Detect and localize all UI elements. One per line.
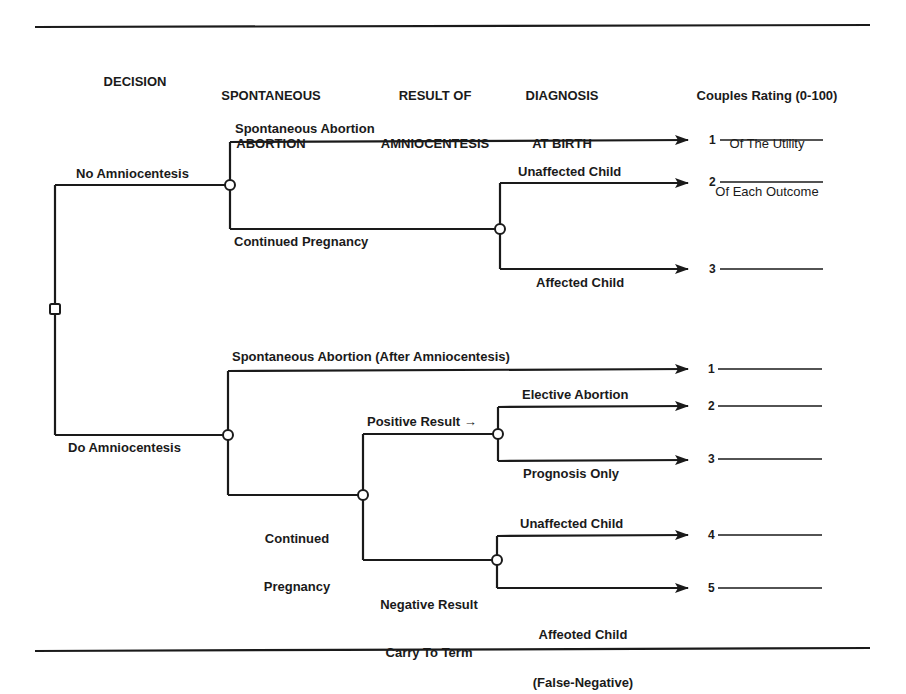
label-da-continued-pregnancy: Continued Pregnancy	[252, 499, 342, 611]
decision-node-square-icon	[50, 304, 60, 314]
header-spontaneous-abortion: SPONTANEOUS ABORTION	[206, 56, 336, 168]
header-diagnosis-at-birth: DIAGNOSIS AT BIRTH	[512, 56, 612, 168]
label-da-spontaneous-abortion: Spontaneous Abortion (After Amniocentesi…	[232, 349, 510, 365]
outcome-number-da-5: 5	[708, 581, 715, 595]
outcome-number-da-2: 2	[708, 399, 715, 413]
header-diagnosis-line1: DIAGNOSIS	[512, 88, 612, 104]
label-da-continued-line2: Pregnancy	[252, 579, 342, 595]
label-da-affected-line1: Affeoted Child	[518, 627, 648, 643]
da-unaffected-branch	[497, 535, 688, 536]
outcome-number-na-1: 1	[709, 133, 716, 147]
header-result-of-amniocentesis: RESULT OF AMNIOCENTESIS	[370, 56, 500, 168]
label-da-negative-line2: Carry To Term	[364, 645, 494, 661]
outcome-number-da-3: 3	[708, 452, 715, 466]
da-spont-branch	[228, 369, 688, 371]
label-da-negative-line1: Negative Result	[364, 597, 494, 613]
top-rule	[35, 25, 870, 27]
header-spontaneous-abortion-line1: SPONTANEOUS	[206, 88, 336, 104]
label-da-affected-line2: (False-Negative)	[518, 675, 648, 691]
outcome-number-da-4: 4	[708, 528, 715, 542]
chance-node-da-pregnancy-icon	[223, 430, 233, 440]
label-na-unaffected-child: Unaffected Child	[518, 164, 621, 180]
da-elective-branch	[498, 406, 688, 407]
header-utility-line2: Of The Utility	[672, 136, 862, 152]
label-da-affected-child: Affeoted Child (False-Negative)	[518, 595, 648, 694]
label-da-positive-result: Positive Result →	[367, 414, 477, 430]
header-utility-rating: Couples Rating (0-100) Of The Utility Of…	[672, 56, 862, 216]
da-prognosis-branch	[498, 460, 688, 461]
label-do-amniocentesis: Do Amniocentesis	[68, 440, 181, 456]
header-diagnosis-line2: AT BIRTH	[512, 136, 612, 152]
label-na-spontaneous-abortion: Spontaneous Abortion	[235, 121, 375, 137]
outcome-number-da-1: 1	[708, 362, 715, 376]
header-result-line1: RESULT OF	[370, 88, 500, 104]
chance-node-na-birth-icon	[495, 224, 505, 234]
label-no-amniocentesis: No Amniocentesis	[76, 166, 189, 182]
chance-node-da-result-icon	[358, 490, 368, 500]
outcome-number-na-3: 3	[709, 262, 716, 276]
chance-node-na-pregnancy-icon	[225, 180, 235, 190]
label-da-continued-line1: Continued	[252, 531, 342, 547]
chance-node-da-negative-icon	[492, 555, 502, 565]
label-na-continued-pregnancy: Continued Pregnancy	[234, 234, 368, 250]
outcome-number-na-2: 2	[709, 175, 716, 189]
header-utility-line1: Couples Rating (0-100)	[672, 88, 862, 104]
label-da-prognosis-only: Prognosis Only	[523, 466, 619, 482]
chance-node-da-positive-icon	[493, 429, 503, 439]
header-utility-line3: Of Each Outcome	[672, 184, 862, 200]
header-decision: DECISION	[85, 74, 185, 90]
label-da-negative-result: Negative Result Carry To Term	[364, 565, 494, 677]
label-da-elective-abortion: Elective Abortion	[522, 387, 628, 403]
header-spontaneous-abortion-line2: ABORTION	[206, 136, 336, 152]
label-na-affected-child: Affected Child	[536, 275, 624, 291]
label-da-unaffected-child: Unaffected Child	[520, 516, 623, 532]
header-result-line2: AMNIOCENTESIS	[370, 136, 500, 152]
